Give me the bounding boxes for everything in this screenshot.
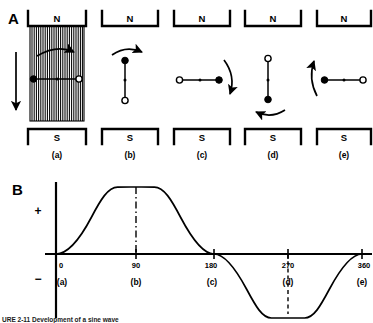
- stage-b-caption: (b): [125, 150, 136, 160]
- stage-c-conductor-loop: [176, 77, 222, 84]
- stage-b-conductor-loop: [122, 57, 129, 103]
- stage-b-axis-point: [124, 79, 127, 82]
- chart-caption-d: (d): [283, 277, 294, 287]
- y-axis-negative-label: −: [34, 272, 41, 286]
- stage-d-axis-point: [267, 79, 270, 82]
- x-tick-label-90: 90: [132, 261, 140, 270]
- panel-b-letter: B: [12, 181, 23, 198]
- sine-wave-generation-figure: A N: [0, 0, 373, 323]
- x-tick-labels: 0 90 180 270 360: [59, 261, 370, 270]
- stage-d-north-label: N: [270, 13, 277, 24]
- stage-a-south-label: S: [54, 132, 60, 143]
- stage-c-right-terminal: [216, 77, 223, 84]
- y-axis-positive-label: +: [34, 204, 41, 218]
- panel-a-group: A N: [8, 10, 371, 160]
- stage-c-caption: (c): [197, 150, 208, 160]
- stage-e-axis-point: [343, 79, 346, 82]
- stage-e-left-terminal: [321, 77, 328, 84]
- figure-container: A N: [0, 0, 373, 323]
- stage-d-bottom-terminal: [265, 96, 272, 103]
- chart-caption-b: (b): [131, 277, 142, 287]
- stage-a-field-lines: [30, 26, 84, 121]
- stage-c-axis-point: [199, 79, 202, 82]
- stage-e-north-label: N: [341, 13, 348, 24]
- x-tick-label-0: 0: [59, 261, 63, 270]
- stage-c-left-terminal: [176, 77, 182, 83]
- stage-a-right-terminal: [76, 76, 82, 82]
- stage-b-group: N S (b): [102, 11, 158, 160]
- stage-e-conductor-loop: [321, 77, 366, 84]
- panel-b-group: B + − 0 90: [12, 181, 372, 318]
- stage-d-conductor-loop: [265, 55, 272, 102]
- stage-b-north-label: N: [127, 13, 134, 24]
- stage-a-caption: (a): [52, 150, 63, 160]
- stage-b-top-terminal: [122, 57, 129, 64]
- stage-e-caption: (e): [339, 150, 350, 160]
- chart-caption-a: (a): [57, 277, 68, 287]
- stage-a-north-label: N: [54, 13, 61, 24]
- stage-d-group: N S (d): [245, 11, 301, 160]
- x-tick-label-360: 360: [358, 261, 371, 270]
- panel-a-letter: A: [8, 10, 19, 27]
- stage-d-south-label: S: [270, 132, 276, 143]
- stage-c-south-label: S: [199, 132, 205, 143]
- stage-d-top-terminal: [265, 55, 271, 61]
- chart-caption-e: (e): [357, 277, 368, 287]
- stage-a-axis-point: [56, 78, 59, 81]
- stage-a-group: N: [16, 11, 86, 160]
- stage-e-right-terminal: [360, 77, 366, 83]
- chart-caption-c: (c): [207, 277, 218, 287]
- stage-e-south-label: S: [341, 132, 347, 143]
- x-tick-label-180: 180: [205, 261, 218, 270]
- x-axis-stage-captions: (a) (b) (c) (d) (e): [57, 277, 368, 287]
- x-tick-label-270: 270: [282, 261, 295, 270]
- stage-e-rotation-arrow: [312, 61, 317, 96]
- sine-wave-curve: [56, 187, 362, 318]
- stage-d-caption: (d): [268, 150, 279, 160]
- stage-b-rotation-arrow: [112, 49, 142, 55]
- stage-c-rotation-arrow: [224, 60, 232, 94]
- stage-c-north-label: N: [199, 13, 206, 24]
- stage-b-bottom-terminal: [122, 97, 128, 103]
- stage-c-group: N S (c): [174, 11, 232, 160]
- stage-d-rotation-arrow: [256, 110, 285, 115]
- stage-a-left-terminal: [30, 76, 37, 83]
- stage-b-south-label: S: [127, 132, 133, 143]
- figure-caption: URE 2-11 Development of a sine wave: [2, 316, 119, 323]
- stage-e-group: N S (e): [312, 11, 371, 160]
